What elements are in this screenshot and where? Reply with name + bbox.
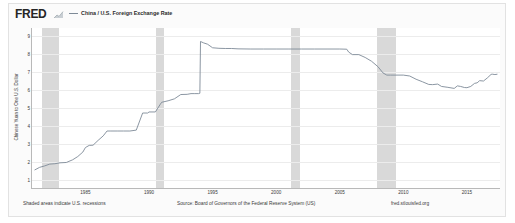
- y-axis-line: [31, 28, 32, 188]
- screenshot-root: FRED China / U.S. Foreign Exchange Rate …: [0, 0, 515, 223]
- legend-item-label: China / U.S. Foreign Exchange Rate: [81, 10, 172, 17]
- x-tick-label: 2010: [398, 190, 408, 196]
- recession-note: Shaded areas indicate U.S. recessions: [23, 200, 106, 207]
- y-tick-label: 7: [27, 70, 30, 75]
- x-tick-label: 1990: [144, 190, 154, 196]
- x-tick-label: 2005: [335, 190, 345, 196]
- y-tick-label: 9: [27, 34, 30, 39]
- plot-area: [32, 28, 500, 188]
- chart-legend: China / U.S. Foreign Exchange Rate: [69, 10, 172, 17]
- x-tick-label: 2000: [271, 190, 281, 196]
- x-tick-label: 1985: [80, 190, 90, 196]
- fred-graph-icon: [54, 11, 64, 19]
- y-axis-ticks: 123456789: [19, 26, 31, 196]
- line-swatch-icon: [69, 13, 78, 14]
- y-tick-label: 8: [27, 52, 30, 57]
- chart-footer: Shaded areas indicate U.S. recessions So…: [9, 200, 507, 216]
- y-tick-label: 5: [27, 106, 30, 111]
- y-tick-label: 3: [27, 141, 30, 146]
- y-tick-label: 6: [27, 88, 30, 93]
- x-tick-label: 2015: [462, 190, 472, 196]
- source-note: Source: Board of Governors of the Federa…: [177, 200, 315, 207]
- x-axis-ticks: 1985199019952000200520102015: [32, 188, 500, 198]
- series-line-china-usd-fx: [32, 28, 500, 188]
- series-path: [35, 41, 498, 170]
- x-axis-line: [31, 188, 500, 189]
- chart-header: FRED China / U.S. Foreign Exchange Rate: [9, 4, 507, 26]
- fred-logo[interactable]: FRED: [15, 8, 46, 20]
- y-tick-label: 1: [27, 177, 30, 182]
- y-tick-label: 4: [27, 123, 30, 128]
- fred-chart-card: FRED China / U.S. Foreign Exchange Rate …: [8, 3, 506, 217]
- fred-url[interactable]: fred.stlouisfed.org: [391, 200, 429, 207]
- x-tick-label: 1995: [207, 190, 217, 196]
- plot-region: Chinese Yuan to One U.S. Dollar 12345678…: [9, 26, 507, 196]
- y-tick-label: 2: [27, 159, 30, 164]
